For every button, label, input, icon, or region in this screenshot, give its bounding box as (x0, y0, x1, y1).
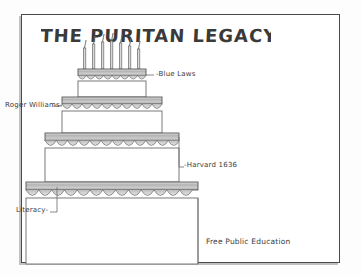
candle (119, 35, 122, 69)
candle (101, 34, 104, 69)
candle (137, 41, 140, 69)
label-literacy: Literacy- (16, 206, 48, 214)
label-harvard-1636: -Harvard 1636 (184, 161, 237, 169)
candles-group (83, 33, 140, 69)
label-text: Harvard 1636 (187, 161, 238, 169)
label-roger-williams: Roger Williams- (5, 101, 63, 109)
tier-top (78, 69, 146, 97)
label-dash: - (60, 101, 63, 109)
tier-third (45, 133, 179, 182)
paper-frame: THE PURITAN LEGACY (21, 14, 340, 263)
tier-bottom (26, 182, 198, 264)
candle (83, 40, 86, 69)
candle (110, 33, 113, 69)
label-text: Literacy (16, 206, 46, 214)
candle (128, 38, 131, 69)
candle (92, 36, 95, 69)
label-free-public-education: Free Public Education (206, 237, 290, 246)
tier-second (62, 97, 162, 133)
label-dash: - (46, 206, 49, 214)
drawing-canvas: THE PURITAN LEGACY (0, 0, 361, 277)
label-text: Free Public Education (206, 237, 290, 246)
cake-illustration: -Blue Laws Roger Williams- -Harvard 1636… (22, 15, 339, 262)
label-blue-laws: -Blue Laws (156, 70, 196, 78)
label-text: Roger Williams (5, 101, 60, 109)
label-text: Blue Laws (158, 70, 195, 78)
cake-svg (22, 15, 341, 264)
